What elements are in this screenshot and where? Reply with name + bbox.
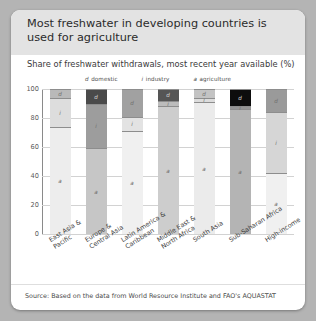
bar-segment-industry[interactable]: i [230,106,251,109]
bar-segment-key: i [122,121,143,127]
bar-6[interactable]: aid [230,89,251,234]
source-note: Source: Based on the data from World Res… [11,284,305,310]
bar-segment-industry[interactable]: i [194,98,215,102]
bar-segment-key: a [158,168,179,174]
bar-segment-domestic[interactable]: d [158,89,179,101]
bar-segment-key: i [86,123,107,129]
bar-segment-key: a [230,169,251,175]
bar-segment-domestic[interactable]: d [122,89,143,117]
bar-segment-domestic[interactable]: d [266,89,287,112]
chart-subtitle: Share of freshwater withdrawals, most re… [27,59,295,69]
bar-segment-agriculture[interactable]: a [230,109,251,234]
bar-5[interactable]: aid [194,89,215,234]
y-tick-label: 20 [31,201,39,209]
bar-segment-industry[interactable]: i [86,104,107,149]
bar-segment-domestic[interactable]: d [230,89,251,106]
bar-segment-key: d [50,91,71,97]
y-tick-label: 60 [31,143,39,151]
legend-label-agriculture: agriculture [200,76,231,82]
bar-segment-key: a [122,180,143,186]
bar-2[interactable]: aid [86,89,107,234]
bar-segment-agriculture[interactable]: a [50,127,71,234]
y-tick-label: 40 [31,172,39,180]
bar-segment-key: d [86,94,107,100]
bar-3[interactable]: aid [122,89,143,234]
legend-label-domestic: domestic [91,76,117,82]
bar-segment-key: i [158,101,179,107]
bar-segment-key: a [50,178,71,184]
chart-card: Most freshwater in developing countries … [11,10,305,310]
y-tick-label: 80 [31,114,39,122]
chart-legend: ddomesticiindustryaagriculture [11,76,305,82]
bar-segment-key: i [50,110,71,116]
bar-segment-domestic[interactable]: d [194,89,215,98]
bar-segment-key: i [194,97,215,103]
y-tick-label: 0 [35,230,39,238]
bar-segment-industry[interactable]: i [122,117,143,132]
bar-segment-key: d [122,100,143,106]
bar-segment-key: d [158,92,179,98]
legend-label-industry: industry [146,76,170,82]
bar-segment-agriculture[interactable]: a [122,131,143,234]
legend-key-industry: i [142,76,144,82]
y-tick-label: 100 [26,85,39,93]
bar-segment-industry[interactable]: i [50,98,71,127]
bar-segment-agriculture[interactable]: a [86,148,107,234]
legend-item-industry: iindustry [142,76,170,82]
chart-title: Most freshwater in developing countries … [11,10,305,55]
bar-segment-key: a [194,166,215,172]
bar-segment-industry[interactable]: i [158,101,179,107]
bar-segment-agriculture[interactable]: a [194,102,215,234]
bar-segment-key: d [266,98,287,104]
bar-segment-key: d [230,95,251,101]
plot-area: 020406080100aidaidaidaidaidaidaid [42,89,294,234]
legend-item-domestic: ddomestic [85,76,118,82]
bar-segment-domestic[interactable]: d [86,89,107,104]
bar-segment-key: i [266,140,287,146]
bar-segment-industry[interactable]: i [266,112,287,173]
legend-item-agriculture: aagriculture [193,76,231,82]
bar-1[interactable]: aid [50,89,71,234]
bar-segment-domestic[interactable]: d [50,89,71,98]
legend-key-agriculture: a [193,76,197,82]
bar-segment-key: a [86,189,107,195]
legend-key-domestic: d [85,76,89,82]
bar-segment-key: d [194,91,215,97]
